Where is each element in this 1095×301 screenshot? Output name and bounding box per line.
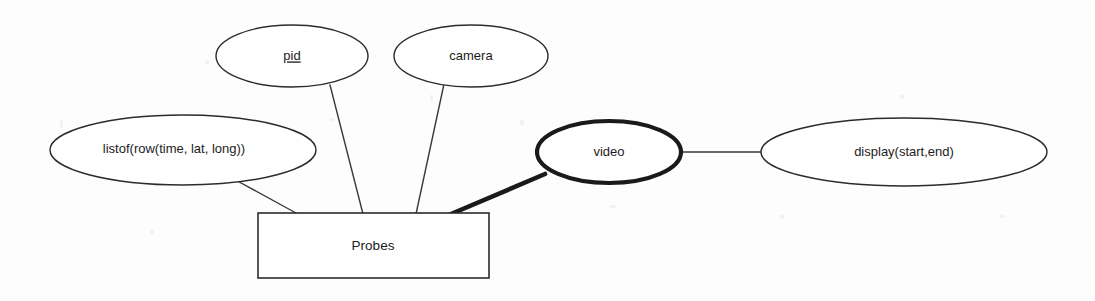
attribute-label-pid: pid xyxy=(283,48,300,63)
attribute-node-display[interactable]: display(start,end) xyxy=(761,118,1047,186)
edge-pid-probes xyxy=(330,85,363,214)
edge-video-probes xyxy=(451,174,545,214)
edge-listof-probes xyxy=(232,178,296,213)
attribute-label-listof: listof(row(time, lat, long)) xyxy=(103,141,245,156)
er-diagram-canvas: pid camera listof(row(time, lat, long)) … xyxy=(0,0,1095,301)
attribute-node-listof[interactable]: listof(row(time, lat, long)) xyxy=(50,115,316,185)
attribute-node-video[interactable]: video xyxy=(537,121,681,183)
attribute-label-display: display(start,end) xyxy=(854,144,954,159)
attribute-node-camera[interactable]: camera xyxy=(394,25,548,87)
attribute-label-camera: camera xyxy=(449,48,493,63)
attribute-label-video: video xyxy=(593,144,624,159)
er-diagram-svg: pid camera listof(row(time, lat, long)) … xyxy=(0,0,1095,301)
entity-node-probes[interactable]: Probes xyxy=(258,213,489,278)
edge-camera-probes xyxy=(416,84,444,214)
attribute-node-pid[interactable]: pid xyxy=(216,25,368,87)
entity-label-probes: Probes xyxy=(352,238,395,253)
